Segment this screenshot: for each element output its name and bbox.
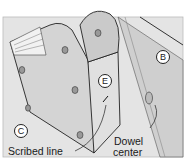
dowel-center-label-1: Dowel	[114, 136, 143, 146]
dowel-center-label-2: center	[113, 147, 142, 157]
illustration: B E C Scribed line Dowel center	[0, 0, 185, 168]
callout-c: C	[14, 124, 28, 138]
callout-b: B	[156, 50, 170, 64]
scribed-line-label: Scribed line	[8, 146, 63, 156]
callout-e: E	[98, 74, 112, 88]
bracket-drawing	[0, 0, 185, 168]
